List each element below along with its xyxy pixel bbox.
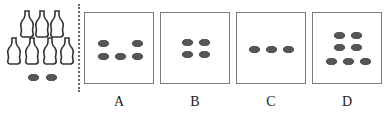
dot — [199, 39, 210, 46]
dotted-divider — [78, 4, 80, 92]
dot — [182, 39, 193, 46]
bottle-group-icon — [0, 0, 78, 92]
dot — [360, 58, 371, 65]
dot — [351, 44, 362, 51]
dot — [326, 58, 337, 65]
stimulus-oval — [46, 74, 57, 81]
dot — [115, 53, 126, 60]
dot — [182, 51, 193, 58]
dot — [334, 32, 345, 39]
dot — [334, 44, 345, 51]
dot — [132, 53, 143, 60]
option-c-box[interactable] — [236, 12, 306, 84]
dot — [249, 46, 260, 53]
option-d-label: D — [312, 94, 382, 110]
option-a-box[interactable] — [84, 12, 154, 84]
option-a-label: A — [84, 94, 154, 110]
dot — [266, 46, 277, 53]
dot — [132, 40, 143, 47]
option-b-box[interactable] — [160, 12, 230, 84]
dot — [199, 51, 210, 58]
stimulus-oval — [28, 74, 39, 81]
dot — [343, 58, 354, 65]
dot — [98, 40, 109, 47]
option-c-label: C — [236, 94, 306, 110]
option-b-label: B — [160, 94, 230, 110]
dot — [98, 53, 109, 60]
option-d-box[interactable] — [312, 12, 382, 84]
dot — [283, 46, 294, 53]
dot — [351, 32, 362, 39]
